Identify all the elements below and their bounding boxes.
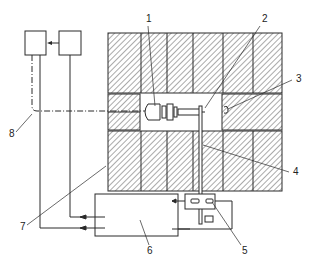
label-6: 6 [147, 245, 153, 256]
counter-box [59, 31, 81, 55]
label-8: 8 [9, 128, 15, 139]
label-3: 3 [296, 73, 302, 84]
label-4: 4 [293, 166, 299, 177]
detector-housing-5 [178, 194, 232, 229]
label-5: 5 [242, 245, 248, 256]
arrow-icon [47, 41, 52, 45]
label-2: 2 [262, 13, 268, 24]
electronics-unit-6 [95, 194, 178, 236]
diagram-canvas: 1 2 3 4 5 6 7 8 [0, 0, 309, 266]
label-1: 1 [146, 13, 152, 24]
label-7: 7 [20, 221, 26, 232]
source-assembly [145, 104, 205, 120]
recorder-box [25, 31, 46, 55]
